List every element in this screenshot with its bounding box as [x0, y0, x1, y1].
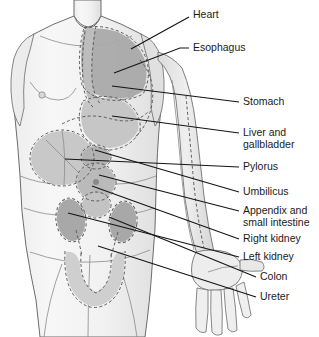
label-right-kidney: Right kidney	[243, 232, 302, 244]
finger-index	[196, 288, 209, 333]
label-appendix: Appendix and	[243, 204, 307, 216]
label-pylorus: Pylorus	[243, 160, 278, 172]
label-ureter: Ureter	[260, 290, 290, 302]
label-stomach: Stomach	[243, 95, 285, 107]
label-heart: Heart	[193, 8, 219, 20]
label-left-kidney: Left kidney	[243, 250, 295, 262]
anatomy-figure: Heart Esophagus Stomach Liver and gallbl…	[0, 0, 319, 337]
label-gallbladder: gallbladder	[243, 138, 295, 150]
left-nipple	[39, 92, 45, 98]
umbilicus-center-dot	[93, 179, 99, 185]
small-intestine-shading	[82, 193, 110, 217]
label-umbilicus: Umbilicus	[243, 185, 289, 197]
finger-middle	[211, 290, 223, 335]
label-liver: Liver and	[243, 126, 286, 138]
label-colon: Colon	[260, 270, 288, 282]
label-esophagus: Esophagus	[193, 41, 246, 53]
label-small-intestine: small intestine	[243, 216, 310, 228]
